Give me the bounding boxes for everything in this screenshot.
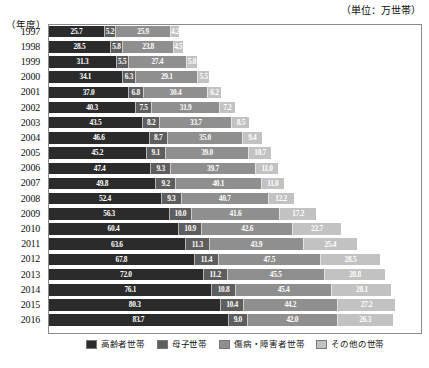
- segment-value: 28.5: [74, 43, 86, 50]
- stacked-bar: 80.310.444.227.2: [49, 299, 395, 311]
- segment-value: 33.7: [190, 119, 202, 126]
- segment-value: 9.2: [161, 180, 169, 187]
- year-label: 2005: [0, 148, 44, 158]
- bar-segment: 9.0: [228, 314, 247, 326]
- bar-segment: 7.2: [219, 102, 234, 114]
- segment-value: 5.0: [188, 58, 196, 65]
- bar-segment: 45.2: [49, 147, 146, 159]
- segment-value: 25.4: [324, 241, 336, 248]
- year-label: 1998: [0, 42, 44, 52]
- bar-segment: 5.2: [104, 26, 115, 38]
- segment-value: 4.5: [174, 43, 182, 50]
- segment-value: 28.5: [345, 256, 357, 263]
- segment-value: 35.0: [199, 134, 211, 141]
- bar-segment: 10.4: [220, 299, 242, 311]
- segment-value: 83.7: [132, 316, 144, 323]
- segment-value: 25.7: [71, 28, 83, 35]
- bar-row: 199828.55.823.84.5: [0, 39, 429, 54]
- segment-value: 47.4: [94, 165, 106, 172]
- bar-segment: 28.5: [49, 41, 110, 53]
- legend-swatch-icon: [219, 340, 230, 349]
- bar-row: 201267.811.447.528.5: [0, 252, 429, 267]
- bar-row: 201163.611.343.925.4: [0, 237, 429, 252]
- segment-value: 6.3: [125, 73, 133, 80]
- stacked-bar: 40.37.531.97.2: [49, 102, 235, 114]
- bar-segment: 46.6: [49, 132, 149, 144]
- segment-value: 52.4: [99, 195, 111, 202]
- legend-swatch-icon: [316, 340, 327, 349]
- segment-value: 9.3: [167, 195, 175, 202]
- stacked-bar: 43.58.233.78.5: [49, 117, 249, 129]
- bar-segment: 39.7: [170, 163, 255, 175]
- legend-label: その他の世帯: [331, 340, 384, 349]
- bar-segment: 4.2: [170, 26, 179, 38]
- stacked-bar: 52.49.340.712.2: [49, 193, 294, 205]
- stacked-bar: 72.011.245.528.8: [49, 269, 385, 281]
- segment-value: 34.1: [80, 73, 92, 80]
- segment-value: 6.8: [132, 89, 140, 96]
- bar-segment: 11.3: [185, 238, 209, 250]
- bar-row: 201372.011.245.528.8: [0, 267, 429, 282]
- segment-value: 60.4: [108, 225, 120, 232]
- bar-segment: 27.2: [337, 299, 395, 311]
- bar-segment: 35.0: [167, 132, 242, 144]
- segment-value: 8.5: [237, 119, 245, 126]
- stacked-bar: 67.811.447.528.5: [49, 254, 380, 266]
- bar-segment: 72.0: [49, 269, 203, 281]
- bar-row: 200137.06.830.46.2: [0, 85, 429, 100]
- segment-value: 29.1: [161, 73, 173, 80]
- bar-segment: 11.0: [261, 178, 284, 190]
- segment-value: 5.5: [200, 73, 208, 80]
- year-label: 2001: [0, 87, 44, 97]
- legend-item: その他の世帯: [316, 340, 384, 349]
- bar-segment: 10.8: [211, 284, 234, 296]
- bar-segment: 6.2: [207, 87, 220, 99]
- bar-segment: 43.9: [209, 238, 303, 250]
- segment-value: 40.7: [219, 195, 231, 202]
- bar-segment: 83.7: [49, 314, 228, 326]
- legend-label: 高齢者世帯: [101, 340, 145, 349]
- bar-segment: 45.4: [235, 284, 332, 296]
- stacked-bar: 31.35.527.45.0: [49, 56, 197, 68]
- year-label: 2014: [0, 285, 44, 295]
- segment-value: 9.4: [248, 134, 256, 141]
- bar-segment: 10.9: [178, 223, 201, 235]
- bar-segment: 45.5: [227, 269, 324, 281]
- stacked-bar: 25.75.225.94.2: [49, 26, 179, 38]
- stacked-bar: 46.68.735.09.4: [49, 132, 262, 144]
- bar-segment: 10.0: [169, 208, 190, 220]
- year-label: 1999: [0, 57, 44, 67]
- bar-segment: 7.5: [135, 102, 151, 114]
- bar-segment: 11.4: [194, 254, 218, 266]
- legend-swatch-icon: [157, 340, 168, 349]
- bar-row: 200446.68.735.09.4: [0, 130, 429, 145]
- year-label: 2008: [0, 194, 44, 204]
- year-label: 2009: [0, 209, 44, 219]
- segment-value: 47.5: [263, 256, 275, 263]
- segment-value: 9.0: [234, 316, 242, 323]
- segment-value: 12.2: [275, 195, 287, 202]
- segment-value: 26.3: [359, 316, 371, 323]
- segment-value: 67.8: [116, 256, 128, 263]
- bar-segment: 63.6: [49, 238, 185, 250]
- stacked-bar: 83.79.042.026.3: [49, 314, 393, 326]
- bar-segment: 31.9: [151, 102, 219, 114]
- year-label: 2011: [0, 239, 44, 249]
- bar-row: 200034.16.329.15.5: [0, 70, 429, 85]
- year-label: 2012: [0, 254, 44, 264]
- segment-value: 10.7: [254, 149, 266, 156]
- year-label: 1997: [0, 27, 44, 37]
- bar-segment: 27.4: [128, 56, 187, 68]
- segment-value: 5.5: [118, 58, 126, 65]
- stacked-bar: 34.16.329.15.5: [49, 71, 209, 83]
- bar-segment: 11.0: [255, 163, 278, 175]
- bar-segment: 9.3: [161, 193, 181, 205]
- bar-segment: 25.7: [49, 26, 104, 38]
- bar-row: 200545.29.139.010.7: [0, 146, 429, 161]
- legend-label: 母子世帯: [172, 340, 207, 349]
- year-label: 2002: [0, 103, 44, 113]
- legend-item: 母子世帯: [157, 340, 207, 349]
- stacked-bar: 76.110.845.428.1: [49, 284, 391, 296]
- segment-value: 23.8: [142, 43, 154, 50]
- bar-segment: 52.4: [49, 193, 161, 205]
